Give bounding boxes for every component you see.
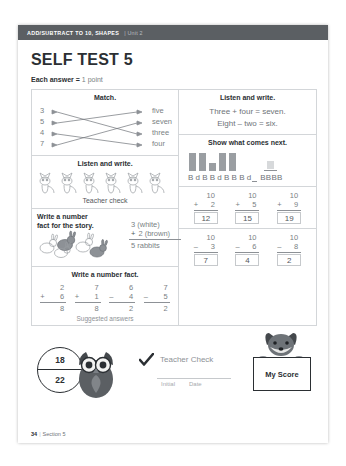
exercise-column-right: Listen and write. Three + four = seven. … xyxy=(179,90,316,325)
signature-rule[interactable] xyxy=(157,378,231,379)
match-words: five seven three four xyxy=(152,105,172,149)
pattern-bars xyxy=(185,151,310,171)
sum-bottom-row: + 5 xyxy=(235,200,259,209)
sum-rule xyxy=(235,252,259,253)
score-area: 18 22 xyxy=(31,335,315,405)
sum-bottom-row: – 3 xyxy=(194,242,218,251)
running-header-title: ADD/SUBTRACT TO 10, SHAPES xyxy=(27,30,119,36)
owl-icon xyxy=(67,343,125,401)
fact-answer[interactable]: 8 xyxy=(75,304,101,313)
fact-answer[interactable]: 2 xyxy=(109,304,135,313)
initial-label: Initial xyxy=(161,381,175,387)
number-facts-row: 2 + 6 8 7 + xyxy=(32,280,178,315)
match-heading: Match. xyxy=(32,90,178,103)
match-number: 7 xyxy=(40,138,44,149)
sum-rule xyxy=(194,252,218,253)
cats-illustration xyxy=(32,169,178,196)
sum-answer[interactable]: 7 xyxy=(194,254,218,266)
match-numbers: 3 5 4 7 xyxy=(40,105,44,149)
pattern-letters: B d B B d B B B d xyxy=(188,173,251,182)
match-number: 5 xyxy=(40,116,44,127)
listen-write-left-note: Teacher check xyxy=(32,196,178,208)
fact-rule xyxy=(40,302,66,303)
listen-write-left-heading: Listen and write. xyxy=(32,156,178,169)
sum-bottom: 9 xyxy=(294,200,298,209)
pattern-letters-row: B d B B d B B B d BBBB xyxy=(185,173,310,182)
story-addend1: 3 (white) xyxy=(121,220,181,229)
sentence-2[interactable]: Eight – two = six. xyxy=(179,119,316,134)
match-number: 4 xyxy=(40,127,44,138)
sheet-body: SELF TEST 5 Each answer = 1 point Match. xyxy=(18,40,328,443)
story-heading-line2: fact for the story. xyxy=(37,221,121,230)
fact-bottom: 4 xyxy=(129,292,133,301)
sum-operator: – xyxy=(194,242,198,251)
listen-write-right-heading: Listen and write. xyxy=(179,90,316,103)
sum-operator: + xyxy=(277,200,281,209)
match-word: seven xyxy=(152,116,172,127)
exercise-pattern: Show what comes next. xyxy=(179,135,316,187)
fact-bottom-row: – 5 xyxy=(144,292,170,301)
fact-bottom-row: + 6 xyxy=(40,292,66,301)
sum-answer[interactable]: 2 xyxy=(277,254,301,266)
story-left: Write a number fact for the story. xyxy=(37,212,121,262)
signature-labels: Initial Date xyxy=(139,381,249,387)
sum-bottom: 8 xyxy=(294,242,298,251)
exercise-number-facts: Write a number fact. 2 + 6 8 xyxy=(32,267,178,325)
sum-answer[interactable]: 19 xyxy=(277,212,301,224)
pattern-bar xyxy=(229,153,236,171)
sum-bottom: 3 xyxy=(211,242,215,251)
sum-rule xyxy=(235,210,259,211)
worksheet-page: ADD/SUBTRACT TO 10, SHAPES | Unit 2 SELF… xyxy=(0,0,346,466)
pattern-area: B d B B d B B B d BBBB xyxy=(179,148,316,186)
footer-separator: | xyxy=(39,431,40,437)
exercise-story: Write a number fact for the story. xyxy=(32,209,178,267)
sum-top: 10 xyxy=(235,233,259,242)
page-title: SELF TEST 5 xyxy=(31,51,315,69)
sum-bottom-row: – 8 xyxy=(277,242,301,251)
scoring-label: Each answer = xyxy=(31,76,80,83)
pattern-answer-blank xyxy=(252,181,257,182)
sentence-1[interactable]: Three + four = seven. xyxy=(179,103,316,119)
sum-bottom: 5 xyxy=(252,200,256,209)
running-header: ADD/SUBTRACT TO 10, SHAPES | Unit 2 xyxy=(18,25,328,40)
story-total: 5 rabbits xyxy=(121,241,181,250)
section-label: Section 5 xyxy=(43,431,66,437)
sum-answer[interactable]: 12 xyxy=(194,212,218,224)
sums-row-addition: 10 + 2 12 10 + xyxy=(179,187,316,228)
fact-rule xyxy=(109,302,135,303)
sum-bottom: 6 xyxy=(252,242,256,251)
fact-top: 7 xyxy=(75,283,101,292)
pattern-answer-bar xyxy=(267,161,274,169)
sum-bottom-row: + 2 xyxy=(194,200,218,209)
sum-bottom-row: + 9 xyxy=(277,200,301,209)
score-denominator: 22 xyxy=(55,370,64,390)
pattern-answer-slot[interactable] xyxy=(264,161,277,171)
pattern-answer-underline xyxy=(264,170,277,171)
pattern-heading: Show what comes next. xyxy=(179,135,316,148)
story-addend2-row: +2 (brown) xyxy=(121,229,181,238)
fact-operator: – xyxy=(109,292,113,301)
fact-rule xyxy=(144,302,170,303)
running-header-unit: | Unit 2 xyxy=(124,30,143,36)
sum-problem: 10 – 6 4 xyxy=(235,233,259,266)
exercise-grid: Match. xyxy=(31,89,317,326)
sum-top: 10 xyxy=(194,233,218,242)
sum-answer[interactable]: 4 xyxy=(235,254,259,266)
sum-answer[interactable]: 15 xyxy=(235,212,259,224)
my-score-box[interactable]: My Score xyxy=(253,357,311,391)
sum-top: 10 xyxy=(277,233,301,242)
scoring-note: Each answer = 1 point xyxy=(31,76,315,83)
story-right: 3 (white) +2 (brown) 5 rabbits xyxy=(121,212,181,250)
pattern-bar xyxy=(209,163,216,171)
story-body: Write a number fact for the story. xyxy=(32,209,178,266)
story-operator: + xyxy=(131,229,135,238)
fact-answer[interactable]: 8 xyxy=(40,304,66,313)
teacher-check-label: Teacher Check xyxy=(160,355,213,364)
number-fact: 2 + 6 8 xyxy=(40,283,66,313)
sum-operator: + xyxy=(235,200,239,209)
fact-rule xyxy=(75,302,101,303)
sums-row-subtraction: 10 – 3 7 10 – xyxy=(179,229,316,270)
exercise-listen-write-left: Listen and write. xyxy=(32,156,178,209)
pattern-answer-letters[interactable]: BBBB xyxy=(260,173,283,182)
fact-answer[interactable]: 2 xyxy=(144,304,170,313)
